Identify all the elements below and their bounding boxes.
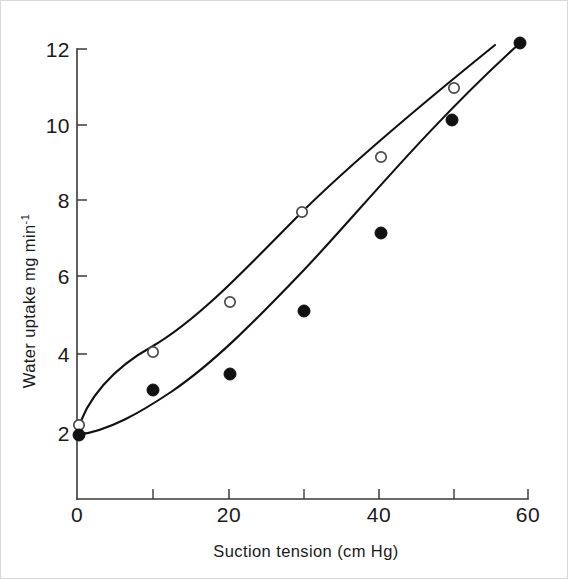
y-tick-label-12: 12 (46, 38, 70, 61)
data-point-filled-1 (147, 384, 159, 396)
chart-canvas: 12 10 8 6 4 2 0 20 40 60 Water uptake mg… (1, 1, 568, 579)
y-tick-label-10: 10 (46, 114, 70, 137)
y-axis-title-group: Water uptake mg min-1 (19, 214, 38, 388)
y-tick-label-4: 4 (58, 343, 70, 366)
y-tick-label-6: 6 (58, 265, 70, 288)
data-point-open-1 (148, 347, 158, 357)
data-point-open-3 (297, 207, 307, 217)
x-tick-label-0: 0 (71, 503, 83, 526)
figure-container: 12 10 8 6 4 2 0 20 40 60 Water uptake mg… (0, 0, 568, 579)
data-point-filled-5 (446, 114, 458, 126)
y-axis-ticks (77, 49, 87, 433)
x-tick-label-40: 40 (367, 503, 391, 526)
y-tick-label-8: 8 (58, 189, 70, 212)
data-point-open-5 (449, 83, 459, 93)
x-axis-title: Suction tension (cm Hg) (213, 542, 398, 560)
data-point-open-4 (376, 152, 386, 162)
y-axis-title-exponent: -1 (19, 214, 31, 225)
data-point-filled-6 (514, 37, 526, 49)
y-tick-label-2: 2 (58, 422, 70, 445)
curve-open-circles (77, 45, 495, 433)
curve-filled-circles (77, 43, 520, 435)
series-filled-circles-markers (73, 37, 526, 441)
data-point-open-2 (225, 297, 235, 307)
x-tick-label-60: 60 (516, 503, 540, 526)
data-point-filled-4 (375, 227, 387, 239)
data-point-filled-0 (73, 429, 85, 441)
y-axis-title: Water uptake mg min (20, 224, 38, 388)
svg-text:Water uptake mg min-1: Water uptake mg min-1 (19, 214, 38, 388)
x-tick-label-20: 20 (217, 503, 241, 526)
series-open-circles-markers (74, 83, 459, 430)
x-axis-ticks (153, 489, 528, 499)
data-point-filled-2 (224, 368, 236, 380)
data-point-filled-3 (298, 305, 310, 317)
